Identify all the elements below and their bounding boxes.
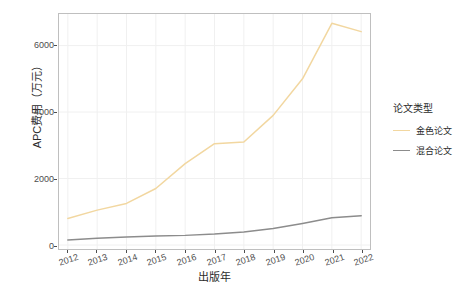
x-tick-mark (274, 250, 275, 253)
x-tick-label: 2020 (294, 252, 316, 268)
x-tick-label: 2016 (175, 252, 197, 268)
x-axis-title: 出版年 (58, 268, 371, 284)
legend-line-icon-hybrid (393, 146, 410, 155)
x-tick-mark (155, 250, 156, 253)
legend-line-icon-gold (393, 126, 410, 135)
x-tick-mark (126, 250, 127, 253)
x-tick-label: 2021 (323, 252, 345, 268)
x-tick-mark (303, 250, 304, 253)
x-tick-mark (185, 250, 186, 253)
legend-item-label: 金色论文 (416, 124, 452, 137)
x-tick-label: 2017 (205, 252, 227, 268)
legend-item-label: 混合论文 (416, 144, 452, 157)
x-tick-mark (67, 250, 68, 253)
x-tick-label: 2015 (146, 252, 168, 268)
legend-item-gold[interactable]: 金色论文 (393, 124, 467, 137)
x-tick-mark (244, 250, 245, 253)
x-tick-label: 2014 (116, 252, 138, 268)
x-tick-label: 2018 (234, 252, 256, 268)
x-tick-label: 2019 (264, 252, 286, 268)
legend-title: 论文类型 (393, 100, 467, 115)
x-tick-label: 2013 (87, 252, 109, 268)
x-tick-mark (215, 250, 216, 253)
legend-item-hybrid[interactable]: 混合论文 (393, 144, 467, 157)
legend: 论文类型 金色论文 混合论文 (393, 100, 467, 164)
x-tick-mark (333, 250, 334, 253)
x-tick-label: 2012 (57, 252, 79, 268)
x-tick-label: 2022 (353, 252, 375, 268)
x-tick-mark (362, 250, 363, 253)
x-tick-mark (96, 250, 97, 253)
chart-container: APC费用（万元） 0200040006000 2012201320142015… (0, 0, 469, 287)
